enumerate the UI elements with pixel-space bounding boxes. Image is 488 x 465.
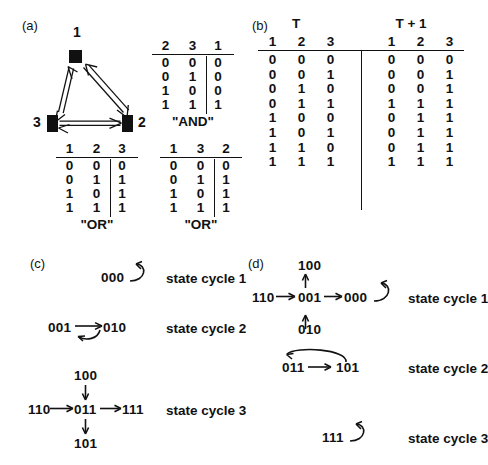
th-output: 3 [110, 141, 134, 156]
truth-table-or-2-header: 1 3 2 [160, 141, 242, 157]
table-row: 0 0 0 [160, 159, 242, 173]
cell: 0 [258, 82, 287, 97]
cell: 0 [56, 173, 83, 187]
transition-arrows-c3 [24, 365, 154, 447]
cell: 1 [258, 141, 287, 156]
cell: 0 [83, 187, 110, 201]
cell: 0 [377, 82, 406, 97]
th-t1-3: 3 [435, 34, 464, 49]
table-row: 1 0 0 [152, 84, 234, 98]
cell: 1 [287, 82, 316, 97]
truth-table-or-3: 1 2 3 0 0 0 0 1 1 1 0 1 1 1 [56, 141, 138, 232]
table-row: 0 0 0 [152, 56, 234, 70]
table-row: 0 0 1 0 0 1 [258, 68, 468, 83]
cell: 1 [179, 98, 206, 112]
cycle-label-3: state cycle 3 [166, 403, 246, 418]
cell: 0 [258, 97, 287, 112]
table-row: 1 0 1 [160, 187, 242, 201]
cell: 1 [110, 173, 134, 187]
truth-table-or-3-divider [110, 159, 111, 217]
cycle-label-2: state cycle 2 [166, 321, 246, 336]
state-node-001: 001 [48, 321, 71, 335]
truth-table-or-3-caption: "OR" [56, 217, 138, 232]
th-t1-2: 2 [406, 34, 435, 49]
transition-arrows-d1 [248, 255, 388, 341]
node-label-1: 1 [73, 24, 81, 40]
cell: 0 [406, 53, 435, 68]
panel-c-cycles: 000 state cycle 1 001 010 state cycle 2 … [0, 245, 240, 465]
cell: 1 [406, 141, 435, 156]
cell: 1 [406, 155, 435, 170]
cell: 0 [377, 126, 406, 141]
column-headers: 1 2 3 1 2 3 [258, 34, 468, 49]
state-node-111: 111 [322, 431, 344, 445]
cell: 1 [316, 126, 345, 141]
time-label-t1: T + 1 [386, 16, 436, 31]
table-row: 0 0 0 0 0 0 [258, 53, 468, 68]
cell: 1 [258, 111, 287, 126]
state-transition-table: T T + 1 1 2 3 1 2 3 0 0 0 0 0 0 [258, 16, 468, 170]
transition-arrows-d2 [282, 343, 358, 379]
cell: 0 [435, 53, 464, 68]
cell: 1 [160, 187, 187, 201]
table-row: 0 1 0 0 0 1 [258, 82, 468, 97]
cell: 1 [179, 70, 206, 84]
truth-table-and-caption: "AND" [152, 114, 234, 129]
node-label-2: 2 [138, 114, 146, 130]
edge-1-2 [84, 64, 129, 117]
table-center-divider [361, 50, 362, 210]
table-row: 1 1 1 [56, 201, 138, 215]
cell: 1 [110, 201, 134, 215]
cell: 0 [316, 141, 345, 156]
cell: 1 [406, 126, 435, 141]
truth-table-and: 2 3 1 0 0 0 0 1 0 1 0 0 1 1 [152, 38, 234, 129]
cell: 0 [206, 56, 230, 70]
table-body: 0 0 0 0 0 0 0 0 1 0 0 1 0 1 0 [258, 53, 468, 170]
th-t1-1: 1 [377, 34, 406, 49]
truth-table-or-2-rows: 0 0 0 0 1 1 1 0 1 1 1 1 [160, 159, 242, 215]
cell: 0 [83, 159, 110, 173]
self-loop-arrow-c1 [126, 261, 152, 287]
cell: 1 [152, 98, 179, 112]
cell: 1 [258, 126, 287, 141]
cell: 0 [152, 56, 179, 70]
th-input-2: 3 [179, 38, 206, 53]
self-loop-arrow-d3 [346, 421, 372, 447]
cell: 0 [287, 68, 316, 83]
cell: 0 [258, 68, 287, 83]
truth-table-and-header: 2 3 1 [152, 38, 234, 54]
cell: 0 [160, 159, 187, 173]
time-label-t: T [276, 16, 316, 31]
table-row: 0 1 1 [160, 173, 242, 187]
header-gap [345, 34, 377, 49]
cell: 0 [377, 141, 406, 156]
truth-table-or-2-divider [214, 159, 215, 217]
cell: 0 [187, 159, 214, 173]
cell: 1 [435, 141, 464, 156]
cell: 0 [206, 84, 230, 98]
panel-label-a: (a) [22, 18, 38, 33]
cell: 0 [316, 53, 345, 68]
cell: 0 [187, 187, 214, 201]
cell: 1 [214, 187, 238, 201]
truth-table-and-divider [206, 56, 207, 114]
th-input-1: 1 [56, 141, 83, 156]
cell: 1 [206, 98, 230, 112]
cell: 1 [377, 155, 406, 170]
table-row: 0 0 0 [56, 159, 138, 173]
cycle-label-1: state cycle 1 [166, 271, 246, 286]
table-row: 1 1 1 [152, 98, 234, 112]
truth-table-or-3-rows: 0 0 0 0 1 1 1 0 1 1 1 1 [56, 159, 138, 215]
cycle-label-3: state cycle 3 [408, 431, 488, 446]
cell: 0 [258, 53, 287, 68]
th-input-2: 2 [83, 141, 110, 156]
cell: 1 [316, 155, 345, 170]
state-node-000: 000 [101, 271, 124, 285]
cell: 0 [377, 53, 406, 68]
cell: 1 [316, 68, 345, 83]
cell: 1 [435, 68, 464, 83]
cell: 1 [435, 97, 464, 112]
cell: 0 [179, 84, 206, 98]
cell: 1 [214, 173, 238, 187]
